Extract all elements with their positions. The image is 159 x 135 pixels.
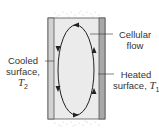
heated-plate	[99, 18, 105, 119]
cooled-surface-label: Cooled surface, T2	[1, 55, 45, 92]
flow-label-line1: Cellular	[114, 29, 156, 40]
cavity	[48, 18, 105, 119]
cooled-label-line1: Cooled	[1, 55, 45, 66]
cooled-plate	[48, 18, 54, 119]
cooled-label-symbol: T2	[1, 77, 45, 92]
flow-label-line2: flow	[114, 40, 156, 51]
heated-surface-label: Heated surface, T1	[113, 69, 159, 95]
heated-label-line2: surface, T1	[113, 80, 159, 95]
bottom-insulation	[54, 121, 99, 127]
cellular-flow-label: Cellular flow	[114, 29, 156, 51]
top-insulation	[54, 11, 99, 17]
